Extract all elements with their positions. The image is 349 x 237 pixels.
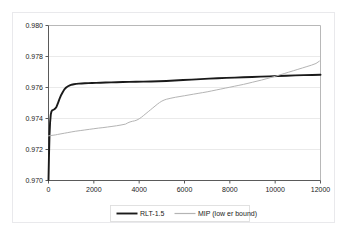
y-axis-tick-label: 0.974 xyxy=(25,115,43,122)
data-series xyxy=(49,61,321,180)
y-axis-tick-label: 0.972 xyxy=(25,146,43,153)
plot-frame xyxy=(49,26,321,181)
y-axis-tick-label: 0.978 xyxy=(25,53,43,60)
x-axis-tick-label: 12000 xyxy=(311,186,331,193)
legend-label-rlt: RLT-1.5 xyxy=(140,210,164,217)
x-axis-tick-label: 0 xyxy=(47,186,51,193)
y-axis-tick-label: 0.976 xyxy=(25,84,43,91)
legend-label-mip: MIP (low er bound) xyxy=(198,210,257,218)
y-axis-tick-labels: 0.9700.9720.9740.9760.9780.980 xyxy=(25,22,43,184)
x-axis-tick-label: 6000 xyxy=(177,186,193,193)
x-axis-tick-label: 4000 xyxy=(131,186,147,193)
y-axis-tick-label: 0.970 xyxy=(25,177,43,184)
series-line-rlt-1-5 xyxy=(49,75,321,180)
x-axis-tick-label: 8000 xyxy=(222,186,238,193)
chart-figure: 0.9700.9720.9740.9760.9780.980 020004000… xyxy=(0,0,349,237)
x-axis-tick-labels: 020004000600080001000012000 xyxy=(47,186,331,193)
x-axis-tick-label: 2000 xyxy=(86,186,102,193)
y-axis-tick-label: 0.980 xyxy=(25,22,43,29)
line-chart: 0.9700.9720.9740.9760.9780.980 020004000… xyxy=(0,0,349,237)
x-axis-tick-label: 10000 xyxy=(265,186,285,193)
chart-legend: RLT-1.5MIP (low er bound) xyxy=(111,206,258,222)
grid-lines xyxy=(49,57,321,150)
series-line-mip-low-er-bound xyxy=(49,61,320,136)
